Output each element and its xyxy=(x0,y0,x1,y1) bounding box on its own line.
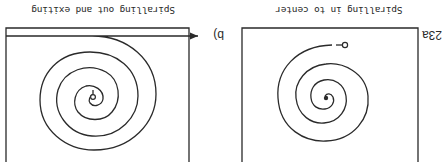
spiral-in-end-dot-icon xyxy=(324,96,328,100)
exit-arrow-icon xyxy=(190,33,198,40)
panel-b-frame xyxy=(6,28,189,162)
spiral-in-start-circle-icon xyxy=(342,42,347,47)
panel-a xyxy=(242,28,418,162)
spiral-out-start-circle-icon xyxy=(91,95,96,100)
figure-stage: 23a b) Spiralling in to center Spirallin… xyxy=(0,0,446,162)
figure-drawing xyxy=(0,0,446,162)
spiral-out-path xyxy=(6,36,198,150)
spiral-in-path xyxy=(278,45,368,141)
panel-b xyxy=(6,28,198,162)
panel-a-frame xyxy=(242,28,418,162)
